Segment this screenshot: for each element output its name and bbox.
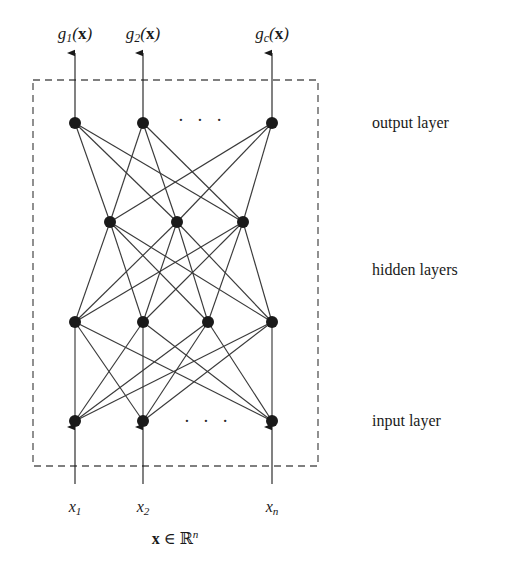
layer-label-output-layer: output layer xyxy=(372,115,449,131)
network-node-output-layer-3 xyxy=(266,117,278,129)
network-edge xyxy=(208,222,243,322)
network-node-hidden-layer-1-1 xyxy=(104,216,116,228)
network-edge xyxy=(143,123,177,222)
network-node-input-layer-2 xyxy=(137,415,149,427)
network-node-input-layer-3 xyxy=(266,415,278,427)
input-label-x2: x2 xyxy=(137,499,150,517)
output-label-g1: g1(x) xyxy=(58,25,92,45)
dashed-boundary-rect xyxy=(33,80,318,466)
network-node-output-layer-1 xyxy=(69,117,81,129)
input-label-x1: x1 xyxy=(69,499,82,517)
output-label-gc: gc(x) xyxy=(255,25,289,45)
network-node-output-layer-2 xyxy=(137,117,149,129)
network-edge xyxy=(75,123,110,222)
network-edge xyxy=(208,322,272,421)
ellipsis-input-layer: · · · xyxy=(184,410,232,432)
network-edge xyxy=(143,322,208,421)
network-node-hidden-layer-2-4 xyxy=(266,316,278,328)
network-edge xyxy=(75,123,243,222)
network-nodes xyxy=(69,117,278,427)
network-node-hidden-layer-1-2 xyxy=(171,216,183,228)
network-edge xyxy=(75,322,208,421)
layer-label-hidden-layers: hidden layers xyxy=(372,262,458,278)
network-edge xyxy=(75,222,243,322)
network-node-hidden-layer-2-2 xyxy=(137,316,149,328)
network-node-hidden-layer-2-1 xyxy=(69,316,81,328)
dashed-boundary-box xyxy=(33,80,318,466)
ellipsis-output-layer: · · · xyxy=(178,109,226,131)
neural-network-figure: g1(x)g2(x)gc(x)x1x2xnx ∈ ℝnoutput layerh… xyxy=(0,0,510,567)
network-edge xyxy=(75,222,110,322)
input-vector-label: x ∈ ℝn xyxy=(152,529,199,546)
input-label-xn: xn xyxy=(266,499,279,517)
network-node-hidden-layer-1-3 xyxy=(237,216,249,228)
network-node-input-layer-1 xyxy=(69,415,81,427)
network-edge xyxy=(110,123,143,222)
network-edges xyxy=(75,123,272,421)
network-edge xyxy=(75,222,177,322)
io-arrow-stems xyxy=(75,53,272,484)
layer-label-input-layer: input layer xyxy=(372,413,441,429)
output-label-g2: g2(x) xyxy=(126,25,160,45)
network-graphic xyxy=(0,0,510,567)
network-node-hidden-layer-2-3 xyxy=(202,316,214,328)
